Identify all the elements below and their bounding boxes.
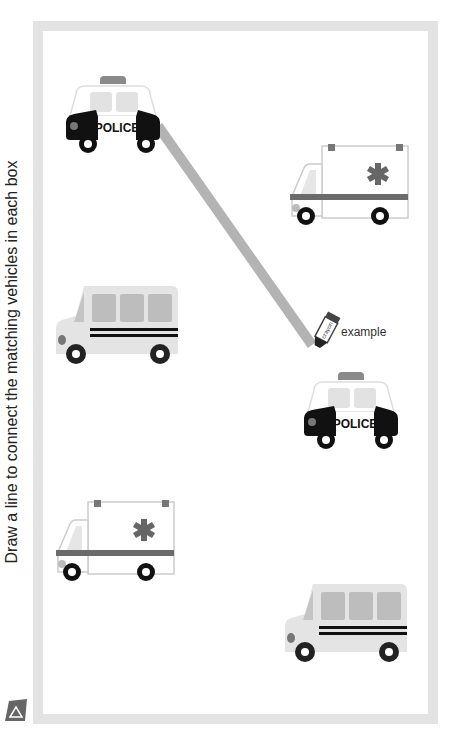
crayon-icon: crayon <box>311 312 340 350</box>
left-ambulance <box>56 500 174 581</box>
worksheet-art: POLICE <box>0 0 449 731</box>
example-line <box>158 126 312 345</box>
right-ambulance <box>290 144 408 225</box>
left-police-car <box>66 76 160 153</box>
left-bus <box>56 286 178 364</box>
right-police-car <box>304 372 398 449</box>
right-bus <box>285 584 407 662</box>
example-label: example <box>341 325 386 339</box>
